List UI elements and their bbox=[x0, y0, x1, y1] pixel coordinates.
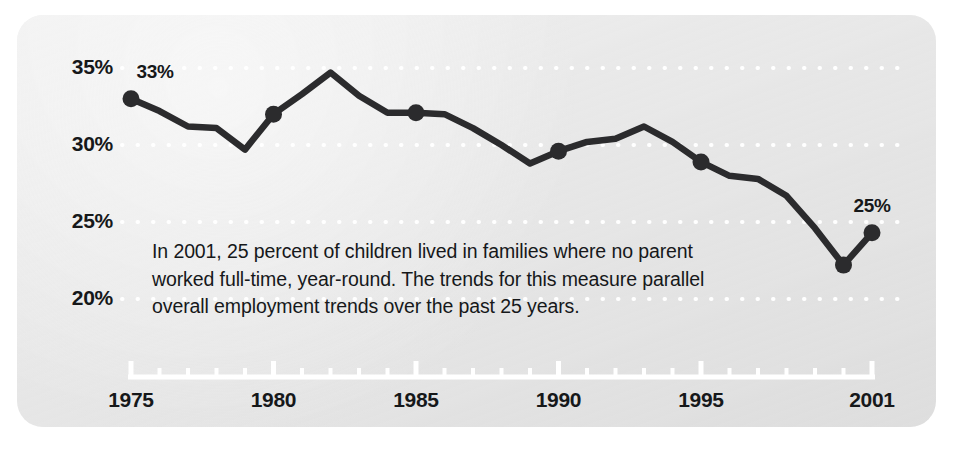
y-axis-tick-label: 35% bbox=[72, 55, 113, 79]
data-point-marker bbox=[835, 257, 852, 274]
data-point-marker bbox=[864, 224, 881, 241]
y-axis-tick-label: 20% bbox=[72, 286, 113, 310]
first-point-label: 33% bbox=[136, 61, 173, 83]
data-line bbox=[131, 73, 872, 266]
last-point-label: 25% bbox=[853, 195, 890, 217]
data-point-marker bbox=[408, 104, 425, 121]
data-point-marker bbox=[693, 153, 710, 170]
chart-note: In 2001, 25 percent of children lived in… bbox=[152, 238, 732, 321]
x-axis-tick-label: 1995 bbox=[678, 388, 724, 412]
data-point-marker bbox=[550, 143, 567, 160]
x-axis-tick-label: 1985 bbox=[393, 388, 439, 412]
x-axis-tick-label: 2001 bbox=[849, 388, 895, 412]
chart-figure: 35%30%25%20% 197519801985199019952001 33… bbox=[0, 0, 960, 453]
x-axis-tick-label: 1975 bbox=[108, 388, 154, 412]
x-axis-group bbox=[128, 361, 875, 377]
data-point-marker bbox=[123, 90, 140, 107]
x-axis-tick-label: 1980 bbox=[251, 388, 297, 412]
y-axis-tick-label: 30% bbox=[72, 132, 113, 156]
x-axis-tick-label: 1990 bbox=[536, 388, 582, 412]
y-axis-tick-label: 25% bbox=[72, 209, 113, 233]
data-point-marker bbox=[265, 106, 282, 123]
